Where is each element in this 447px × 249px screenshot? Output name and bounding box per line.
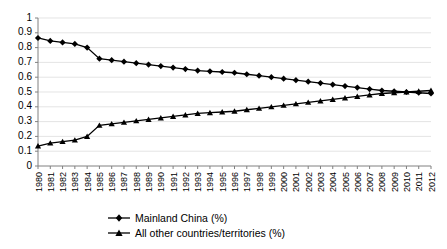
x-axis-tick-label: 1980 [34, 172, 44, 192]
legend-marker-diamond-icon [108, 212, 130, 224]
legend-marker-triangle-icon [108, 227, 130, 239]
x-axis-tick-label: 1998 [255, 172, 265, 192]
x-axis-tick-label: 1993 [193, 172, 203, 192]
x-axis-tick-label: 2002 [304, 172, 314, 192]
data-point [244, 71, 250, 77]
x-axis-tick-label: 2001 [291, 172, 301, 192]
series-line-0 [38, 38, 431, 94]
x-axis-tick-label: 1990 [156, 172, 166, 192]
legend-item-mainland-china: Mainland China (%) [108, 210, 408, 225]
x-axis-tick-label: 2006 [353, 172, 363, 192]
x-axis-tick-label: 2005 [341, 172, 351, 192]
data-point [72, 41, 78, 47]
x-axis-tick-label: 2000 [279, 172, 289, 192]
x-axis-tick-label: 1994 [205, 172, 215, 192]
x-axis-tick-label: 2004 [328, 172, 338, 192]
data-point [47, 38, 53, 44]
y-axis-tick-label: 0 [26, 160, 32, 171]
data-point [207, 68, 213, 74]
x-axis-tick-label: 1997 [242, 172, 252, 192]
y-axis-tick-label: 0.8 [18, 41, 32, 52]
y-axis-tick-label: 0.9 [18, 26, 32, 37]
x-axis-tick-label: 1996 [230, 172, 240, 192]
legend-item-all-other-countries: All other countries/territories (%) [108, 225, 408, 240]
x-axis-tick-label: 2008 [377, 172, 387, 192]
series-line-1 [38, 91, 431, 147]
chart-legend: Mainland China (%) All other countries/t… [108, 210, 408, 240]
data-point [293, 77, 299, 83]
x-axis-tick-label: 1989 [144, 172, 154, 192]
x-axis-tick-label: 1999 [267, 172, 277, 192]
y-axis-tick-label: 0.2 [18, 130, 32, 141]
x-axis-tick-label: 1987 [119, 172, 129, 192]
data-point [366, 86, 372, 92]
data-point [133, 60, 139, 66]
y-axis-tick-label: 0.6 [18, 71, 32, 82]
x-axis-tick-label: 1988 [132, 172, 142, 192]
y-axis-tick-label: 0.3 [18, 115, 32, 126]
y-axis-tick-label: 0.7 [18, 56, 32, 67]
x-axis-tick-label: 1995 [218, 172, 228, 192]
line-chart: 00.10.20.30.40.50.60.70.80.9119801981198… [0, 0, 447, 249]
data-point [330, 82, 336, 88]
data-point [182, 66, 188, 72]
data-point [317, 80, 323, 86]
x-axis-tick-label: 1984 [83, 172, 93, 192]
data-point [170, 64, 176, 70]
x-axis-tick-label: 2009 [390, 172, 400, 192]
x-axis-tick-label: 2010 [402, 172, 412, 192]
data-point [231, 70, 237, 76]
x-axis-tick-label: 1985 [95, 172, 105, 192]
x-axis-tick-label: 1983 [70, 172, 80, 192]
data-point [158, 63, 164, 69]
y-axis-tick-label: 0.1 [18, 145, 32, 156]
x-axis-tick-label: 2012 [427, 172, 437, 192]
data-point [121, 59, 127, 65]
data-point [354, 84, 360, 90]
data-point [195, 67, 201, 73]
data-point [219, 69, 225, 75]
data-point [281, 76, 287, 82]
data-point [305, 79, 311, 85]
data-point [268, 74, 274, 80]
x-axis-tick-label: 2007 [365, 172, 375, 192]
data-point [35, 35, 41, 41]
y-axis-tick-label: 0.4 [18, 100, 32, 111]
data-point [59, 39, 65, 45]
x-axis-tick-label: 2011 [414, 172, 424, 191]
x-axis-tick-label: 2003 [316, 172, 326, 192]
y-axis-tick-label: 1 [26, 12, 32, 23]
x-axis-tick-label: 1992 [181, 172, 191, 192]
x-axis-tick-label: 1986 [107, 172, 117, 192]
y-axis-tick-label: 0.5 [18, 86, 32, 97]
x-axis-tick-label: 1991 [169, 172, 179, 192]
legend-label-all-other-countries: All other countries/territories (%) [135, 227, 285, 239]
legend-label-mainland-china: Mainland China (%) [135, 212, 227, 224]
data-point [342, 83, 348, 89]
x-axis-tick-label: 1981 [46, 172, 56, 192]
data-point [256, 73, 262, 79]
x-axis-tick-label: 1982 [58, 172, 68, 192]
